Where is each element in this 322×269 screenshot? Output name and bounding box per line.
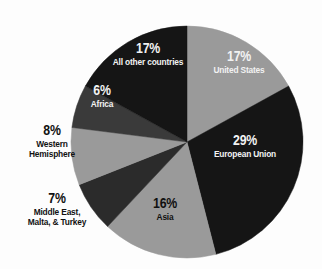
slice-name-middle-east-line-2: Malta, & Turkey	[9, 217, 106, 227]
slice-name-united-states: United States	[197, 65, 281, 75]
slice-percent-all-other-countries: 17%	[102, 41, 194, 56]
slice-label-africa: 6% Africa	[73, 83, 131, 109]
slice-name-all-other-countries: All other countries	[102, 57, 194, 67]
slice-label-middle-east: 7% Middle East, Malta, & Turkey	[9, 191, 106, 228]
slice-name-western-hemisphere-line-2: Hemisphere	[12, 149, 93, 159]
slice-label-european-union: 29% European Union	[199, 133, 291, 159]
slice-percent-africa: 6%	[73, 83, 131, 98]
slice-name-africa: Africa	[73, 99, 131, 109]
slice-percent-western-hemisphere: 8%	[12, 123, 93, 138]
slice-label-western-hemisphere: 8% Western Hemisphere	[12, 123, 93, 160]
pie-chart-figure: 17% United States 29% European Union 16%…	[0, 0, 322, 269]
slice-label-united-states: 17% United States	[197, 49, 281, 75]
slice-label-all-other-countries: 17% All other countries	[102, 41, 194, 67]
slice-name-asia: Asia	[135, 212, 195, 222]
slice-percent-asia: 16%	[135, 196, 195, 211]
slice-percent-united-states: 17%	[197, 49, 281, 64]
slice-percent-middle-east: 7%	[9, 191, 106, 206]
slice-name-european-union: European Union	[199, 149, 291, 159]
slice-percent-european-union: 29%	[199, 133, 291, 148]
slice-label-asia: 16% Asia	[135, 196, 195, 222]
